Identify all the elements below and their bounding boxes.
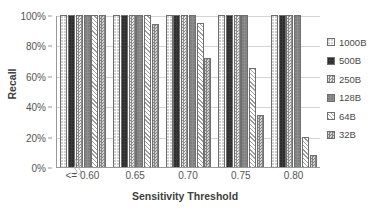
bar-32B-0.70 bbox=[204, 58, 211, 167]
y-tick-mark bbox=[48, 46, 52, 47]
bar-128B-0.75 bbox=[241, 15, 248, 167]
x-tick-label: 0.70 bbox=[162, 170, 215, 181]
legend-swatch-icon bbox=[327, 112, 335, 120]
bar-group bbox=[267, 16, 320, 167]
legend-swatch-icon bbox=[327, 75, 335, 83]
bar-1000B-0.65 bbox=[113, 15, 120, 167]
y-tick-label: 0% bbox=[32, 163, 46, 174]
legend-swatch-icon bbox=[327, 131, 335, 139]
bar-64B-0.70 bbox=[197, 23, 204, 167]
bar-32B-0.80 bbox=[310, 155, 317, 167]
legend-label: 64B bbox=[339, 111, 356, 122]
bar-250B-0.65 bbox=[129, 15, 136, 167]
legend-item-64B[interactable]: 64B bbox=[327, 107, 382, 126]
bar-64B-0.65 bbox=[144, 15, 151, 167]
y-tick-label: 40% bbox=[26, 102, 46, 113]
legend-swatch-icon bbox=[327, 38, 335, 46]
bar-1000B-0.70 bbox=[166, 15, 173, 167]
bar-64B-0.60 bbox=[91, 15, 98, 167]
bar-128B-0.65 bbox=[136, 15, 143, 167]
bar-500B-0.80 bbox=[279, 15, 286, 167]
y-tick-mark bbox=[48, 137, 52, 138]
bar-1000B-0.60 bbox=[60, 15, 67, 167]
bar-group bbox=[162, 16, 215, 167]
bar-1000B-0.75 bbox=[218, 15, 225, 167]
bar-group bbox=[215, 16, 268, 167]
bar-groups bbox=[57, 16, 320, 167]
bar-500B-0.60 bbox=[68, 15, 75, 167]
x-tick-label: 0.65 bbox=[109, 170, 162, 181]
bar-500B-0.70 bbox=[173, 15, 180, 167]
x-axis-title: Sensitivity Threshold bbox=[40, 190, 330, 202]
x-axis-tick-labels: <= 0.600.650.700.750.80 bbox=[56, 170, 320, 181]
bar-32B-0.75 bbox=[257, 115, 264, 167]
bar-64B-0.75 bbox=[249, 68, 256, 167]
legend-item-32B[interactable]: 32B bbox=[327, 126, 382, 145]
bar-128B-0.60 bbox=[84, 15, 91, 167]
legend-label: 32B bbox=[339, 129, 356, 140]
legend-swatch-icon bbox=[327, 94, 335, 102]
bar-group bbox=[57, 16, 110, 167]
bar-250B-0.60 bbox=[76, 15, 83, 167]
bar-group bbox=[110, 16, 163, 167]
legend-item-1000B[interactable]: 1000B bbox=[327, 33, 382, 52]
x-tick-label: <= 0.60 bbox=[56, 170, 109, 181]
legend-swatch-icon bbox=[327, 57, 335, 65]
y-tick-label: 100% bbox=[20, 11, 46, 22]
legend-label: 128B bbox=[339, 92, 361, 103]
bar-32B-0.60 bbox=[99, 15, 106, 167]
bar-128B-0.80 bbox=[294, 15, 301, 167]
recall-vs-sensitivity-bar-chart: Recall 0%20%40%60%80%100% <= 0.600.650.7… bbox=[0, 0, 382, 218]
legend-label: 250B bbox=[339, 74, 361, 85]
y-axis-tick-labels: 0%20%40%60%80%100% bbox=[0, 16, 52, 168]
y-tick-label: 60% bbox=[26, 71, 46, 82]
legend-item-128B[interactable]: 128B bbox=[327, 89, 382, 108]
bar-500B-0.75 bbox=[226, 15, 233, 167]
bar-250B-0.80 bbox=[286, 15, 293, 167]
x-tick-label: 0.75 bbox=[214, 170, 267, 181]
bar-1000B-0.80 bbox=[271, 15, 278, 167]
legend-label: 500B bbox=[339, 55, 361, 66]
bar-64B-0.80 bbox=[302, 137, 309, 167]
legend-item-250B[interactable]: 250B bbox=[327, 70, 382, 89]
y-tick-label: 20% bbox=[26, 132, 46, 143]
bar-500B-0.65 bbox=[121, 15, 128, 167]
bar-250B-0.75 bbox=[234, 15, 241, 167]
bar-32B-0.65 bbox=[152, 24, 159, 167]
legend: 1000B500B250B128B64B32B bbox=[327, 33, 382, 144]
plot-area bbox=[56, 16, 320, 168]
legend-item-500B[interactable]: 500B bbox=[327, 52, 382, 71]
x-tick-label: 0.80 bbox=[267, 170, 320, 181]
y-tick-mark bbox=[48, 168, 52, 169]
y-tick-mark bbox=[48, 16, 52, 17]
y-tick-mark bbox=[48, 107, 52, 108]
y-tick-mark bbox=[48, 76, 52, 77]
y-tick-label: 80% bbox=[26, 41, 46, 52]
legend-label: 1000B bbox=[339, 37, 366, 48]
bar-250B-0.70 bbox=[181, 15, 188, 167]
bar-128B-0.70 bbox=[189, 15, 196, 167]
